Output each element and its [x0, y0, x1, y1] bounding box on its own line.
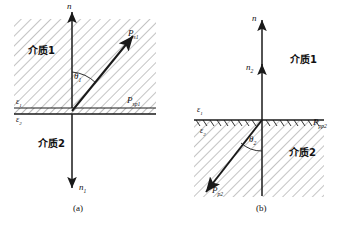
label-medium-2-b: 介质2 — [289, 148, 316, 158]
label-epsilon-2-b: ε2 — [200, 127, 206, 138]
label-theta-1-sub-a: 1 — [78, 77, 81, 83]
label-vector-pp2-sub-b: p2 — [218, 191, 224, 197]
label-epsilon-1-b: ε1 — [197, 106, 203, 117]
label-vector-ps1-sub-a: s1 — [134, 34, 139, 40]
label-medium-2-a: 介质2 — [38, 139, 65, 149]
label-epsilon-2-sub-b: 2 — [203, 132, 205, 137]
label-medium-1-a: 介质1 — [28, 46, 55, 56]
label-vector-ppp2-sub-b: pp2 — [319, 123, 327, 129]
panel-b: n n2 介质1 介质2 ε1 ε2 θ2 Pp2 Ppp2 (b) — [172, 0, 343, 226]
panel-a: n n1 介质1 介质2 ε1 ε2 θ1 Ps1 Psp1 (a) — [0, 0, 172, 226]
label-theta-2-b: θ2 — [249, 135, 256, 146]
label-epsilon-2-a: ε2 — [16, 116, 22, 127]
label-normal-n2-sub-b: 2 — [251, 68, 254, 74]
label-vector-psp1-sub-a: sp1 — [133, 101, 141, 107]
label-epsilon-1-a: ε1 — [16, 98, 22, 109]
label-normal-down-a: n1 — [79, 183, 86, 194]
label-vector-ppp2-b: Ppp2 — [313, 118, 327, 129]
physics-interface-figure: n n1 介质1 介质2 ε1 ε2 θ1 Ps1 Psp1 (a) — [0, 0, 343, 226]
label-epsilon-1-sub-a: 1 — [19, 103, 21, 108]
label-normal-up-b: n — [252, 14, 257, 23]
interface-band — [14, 108, 156, 114]
caption-a: (a) — [73, 203, 83, 213]
label-theta-2-sub-b: 2 — [253, 140, 256, 146]
label-theta-1-a: θ1 — [74, 72, 81, 83]
label-vector-pp2-b: Pp2 — [212, 186, 223, 197]
caption-b: (b) — [256, 203, 267, 213]
label-vector-psp1-a: Psp1 — [127, 96, 140, 107]
label-normal-n2-b: n2 — [246, 63, 253, 74]
label-medium-1-b: 介质1 — [290, 55, 317, 65]
label-normal-up-a: n — [67, 2, 72, 11]
label-epsilon-1-sub-b: 1 — [200, 111, 202, 116]
label-epsilon-2-sub-a: 2 — [19, 121, 21, 126]
label-normal-down-sub-a: 1 — [84, 188, 87, 194]
label-vector-ps1-a: Ps1 — [128, 29, 138, 40]
